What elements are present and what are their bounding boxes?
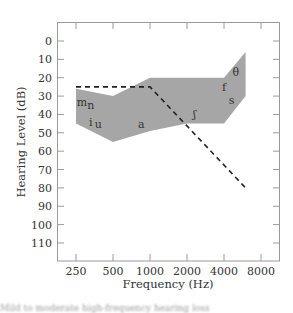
y-tick-label: 70: [38, 164, 52, 177]
y-tick-label: 40: [38, 108, 52, 121]
phoneme-label: s: [229, 94, 235, 107]
y-tick-label: 110: [31, 237, 52, 250]
phoneme-label: a: [138, 118, 145, 131]
x-tick-label: 250: [66, 265, 87, 278]
phoneme-label: m: [77, 96, 88, 109]
phoneme-label: θ: [233, 66, 240, 79]
y-axis-title: Hearing Level (dB): [14, 86, 28, 197]
y-tick-label: 100: [31, 219, 52, 232]
plot-frame: [58, 23, 280, 262]
figure-caption: Mild to moderate high-frequency hearing …: [0, 303, 293, 313]
phoneme-label: i: [89, 116, 93, 129]
x-tick-label: 8000: [247, 265, 275, 278]
x-axis-title: Frequency (Hz): [123, 277, 214, 291]
x-tick-label: 500: [103, 265, 124, 278]
x-tick-label: 4000: [210, 265, 238, 278]
y-tick-label: 0: [45, 35, 52, 48]
y-tick-label: 90: [38, 200, 52, 213]
phoneme-label: n: [87, 99, 94, 112]
y-tick-label: 50: [38, 127, 52, 140]
phoneme-label: u: [95, 118, 102, 131]
y-tick-label: 30: [38, 90, 52, 103]
y-tick-label: 20: [38, 72, 52, 85]
y-tick-label: 60: [38, 145, 52, 158]
y-tick-label: 10: [38, 53, 52, 66]
y-tick-label: 80: [38, 182, 52, 195]
